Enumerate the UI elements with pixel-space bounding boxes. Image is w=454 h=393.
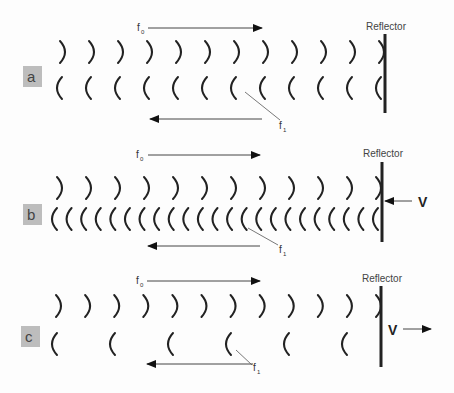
incident-wavefront-arc [292,41,297,63]
incident-frequency-label: f 0 [136,149,144,162]
reflected-wavefront-arc [344,208,349,230]
reflected-wavefront-arc [86,77,91,99]
incident-wavefront-arc [144,177,149,199]
reflected-wavefront-arc [242,208,247,230]
incident-wavefront-arc [234,41,239,63]
svg-text:0: 0 [140,156,144,162]
reflected-wavefront-arc [81,208,86,230]
incident-wavefront-arc [231,177,236,199]
reflected-wavefront-arc [67,208,72,230]
reflected-wavefront-arc [110,333,115,355]
reflected-wavefront-arc [183,208,188,230]
reflected-wavefront-arc [144,77,149,99]
reflector-label: Reflector [362,273,403,284]
incident-wavefront-arc [205,41,210,63]
reflected-wavefront-arc [284,333,289,355]
reflected-wavefront-arc [169,208,174,230]
velocity-label: V [388,322,398,338]
incident-wavefront-arc [347,177,352,199]
reflected-wavefront-arc [376,77,381,99]
panel-a: a f 0 Reflector f 1 [23,21,407,133]
reflected-wavefront-arc [318,77,323,99]
incident-wavefront-arc [201,295,206,317]
diagram-canvas: a f 0 Reflector f 1 b f 0 [0,0,454,393]
reflected-frequency-label: f 1 [253,362,261,375]
incident-wavefront-arc [147,41,152,63]
incident-wavefront-arc [263,41,268,63]
reflected-wavefront-arc [227,208,232,230]
reflected-wavefront-arc [57,77,62,99]
panel-c-letter: c [25,328,33,345]
reflected-wavefront-arc [271,208,276,230]
incident-wavefront-arc [173,177,178,199]
reflected-wavefront-arc [231,77,236,99]
panel-b: b f 0 Reflector V f 1 [23,148,428,257]
svg-text:0: 0 [140,282,144,288]
svg-text:1: 1 [283,127,287,133]
reflected-wavefront-arc [168,333,173,355]
incident-wavefront-arc [260,295,265,317]
incident-wavefront-arc [379,41,384,63]
incident-wavefront-arc [60,41,65,63]
reflected-wavefronts [52,333,347,355]
f1-leader-line [236,350,252,365]
f1-leader-line [248,228,278,245]
incident-wavefront-arc [118,41,123,63]
panel-a-letter: a [27,68,36,85]
reflector-label: Reflector [366,21,407,32]
svg-text:f: f [279,244,282,255]
reflected-wavefront-arc [125,208,130,230]
svg-text:f: f [253,362,256,373]
reflected-wavefront-arc [202,77,207,99]
reflected-wavefront-arc [226,333,231,355]
reflector-label: Reflector [363,148,404,159]
reflected-wavefront-arc [154,208,159,230]
incident-wavefront-arc [86,177,91,199]
incident-wavefront-arc [350,41,355,63]
reflected-frequency-label: f 1 [279,120,287,133]
incident-wavefronts [57,177,381,199]
velocity-label: V [418,194,428,210]
reflected-wavefront-arc [300,208,305,230]
incident-wavefront-arc [347,295,352,317]
incident-wavefront-arc [376,177,381,199]
incident-wavefront-arc [202,177,207,199]
reflected-wavefront-arc [260,77,265,99]
svg-text:f: f [136,275,139,286]
incident-wavefront-arc [231,295,236,317]
reflected-wavefront-arc [256,208,261,230]
svg-text:f: f [137,22,140,33]
incident-wavefront-arc [115,177,120,199]
svg-text:f: f [279,120,282,131]
incident-wavefront-arc [289,177,294,199]
reflected-wavefront-arc [358,208,363,230]
reflected-wavefront-arc [285,208,290,230]
svg-text:1: 1 [257,369,261,375]
reflected-wavefront-arc [52,333,57,355]
incident-wavefronts [60,41,384,63]
incident-wavefront-arc [260,177,265,199]
svg-text:1: 1 [283,251,287,257]
panel-c: c f 0 Reflector V f 1 [21,273,431,375]
incident-wavefront-arc [321,41,326,63]
incident-wavefront-arc [114,295,119,317]
reflected-wavefront-arc [347,77,352,99]
reflected-wavefront-arc [213,208,218,230]
incident-wavefront-arc [85,295,90,317]
panel-b-letter: b [27,206,35,223]
reflected-wavefront-arc [110,208,115,230]
incident-wavefront-arc [176,41,181,63]
reflected-wavefront-arc [198,208,203,230]
incident-wavefront-arc [318,177,323,199]
incident-wavefront-arc [56,295,61,317]
reflected-wavefronts [57,77,381,99]
reflected-wavefront-arc [96,208,101,230]
reflected-wavefront-arc [52,208,57,230]
incident-frequency-label: f 0 [137,22,145,35]
reflected-wavefront-arc [373,208,378,230]
reflected-wavefront-arc [140,208,145,230]
doppler-diagram: a f 0 Reflector f 1 b f 0 [0,0,454,393]
svg-text:f: f [136,149,139,160]
incident-wavefront-arc [143,295,148,317]
incident-wavefronts [56,295,381,317]
